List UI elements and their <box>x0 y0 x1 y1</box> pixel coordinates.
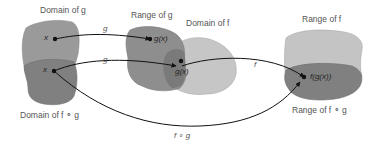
label-arrow-f: f <box>254 60 256 69</box>
label-x-bottom: x <box>43 65 47 74</box>
label-range-fog: Range of f ∘ g <box>292 105 347 115</box>
label-gx-top: g(x) <box>154 34 168 43</box>
point-fgx <box>302 75 306 79</box>
label-x-top: x <box>44 33 48 42</box>
range-fog-region <box>285 63 362 100</box>
label-arrow-g-bottom: g <box>103 55 107 64</box>
label-domain-f: Domain of f <box>186 18 229 28</box>
label-gx-bottom: g(x) <box>175 67 189 76</box>
point-x-top <box>53 37 57 41</box>
label-range-g: Range of g <box>131 10 173 20</box>
point-gx-top <box>148 37 152 41</box>
point-x-bottom <box>52 69 56 73</box>
label-domain-fog: Domain of f ∘ g <box>20 110 79 120</box>
label-range-f: Range of f <box>302 14 341 24</box>
point-gx-bottom <box>179 59 183 63</box>
label-arrow-fog: f ∘ g <box>174 131 190 140</box>
label-arrow-g-top: g <box>103 24 107 33</box>
label-domain-g: Domain of g <box>40 5 86 15</box>
label-fgx: f(g(x)) <box>310 72 331 81</box>
